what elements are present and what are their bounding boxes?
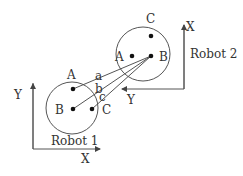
r2-axis-y: Y	[126, 93, 136, 107]
robot2-label: Robot 2	[190, 47, 237, 61]
r1-axis-y: Y	[13, 88, 23, 102]
r2-point-c	[149, 34, 154, 39]
robot-diagram: C A B X Y Robot 2 A B C a b c Y X Robot …	[0, 0, 243, 176]
line-b	[73, 56, 151, 109]
r2-label-c: C	[146, 12, 155, 26]
line-a	[73, 56, 151, 89]
r2-point-a	[130, 54, 135, 59]
r1-label-b: B	[55, 103, 64, 117]
r2-label-a: A	[114, 50, 124, 64]
r1-label-c: C	[102, 103, 111, 117]
r1-point-c	[90, 107, 95, 112]
robot1-label: Robot 1	[51, 134, 98, 148]
line-label-c: c	[99, 90, 106, 104]
r2-axis-x: X	[186, 20, 195, 34]
r1-label-a: A	[66, 68, 76, 82]
r1-point-a	[71, 87, 76, 92]
r2-label-b: B	[159, 50, 168, 64]
r1-point-b	[71, 107, 76, 112]
r2-point-b	[149, 54, 154, 59]
line-label-a: a	[95, 69, 102, 83]
r1-axis-x: X	[81, 152, 90, 166]
